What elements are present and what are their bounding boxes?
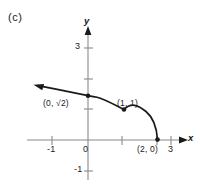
x-axis-label: x [188, 133, 193, 143]
data-curve-group [34, 84, 158, 140]
y-tick-label-3: 3 [75, 42, 80, 51]
x-axis-arrowhead [179, 137, 188, 144]
panel-label: (c) [8, 12, 22, 23]
x-tick-label-0: 0 [83, 145, 88, 154]
x-tick-label-3: 3 [168, 145, 173, 154]
point-annotation-0-sqrt2: (0, √2) [43, 99, 69, 108]
curve-arrowhead [34, 84, 45, 90]
point-annotation-2-0: (2, 0) [137, 145, 158, 154]
y-tick-label-minus-1: -1 [74, 165, 82, 174]
point-marker-2-0 [155, 137, 160, 142]
point-marker-0-sqrt2 [86, 93, 91, 98]
y-axis-arrowhead [85, 26, 92, 35]
point-annotation-1-1: (1, 1) [117, 99, 138, 108]
figure-panel: (c) y x 3 -1 -1 0 3 (0, √2) (1, 1) (2, 0… [0, 0, 200, 188]
data-curve [38, 86, 158, 140]
x-tick-label-minus-1: -1 [47, 145, 55, 154]
plot-canvas [0, 0, 200, 188]
y-axis-label: y [84, 16, 89, 26]
